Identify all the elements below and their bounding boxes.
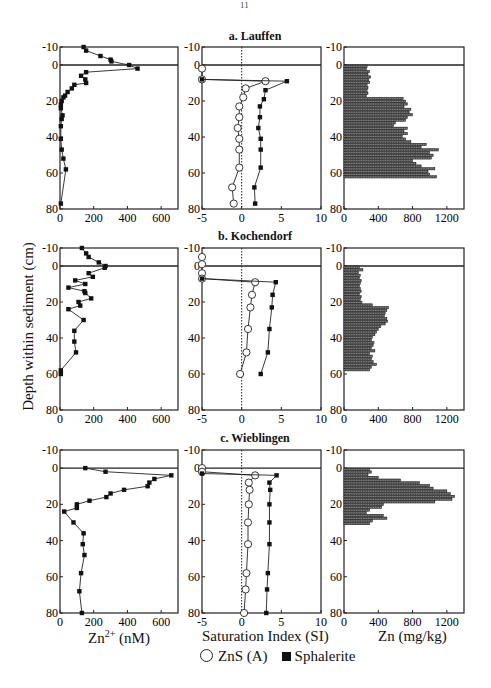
svg-text:20: 20 — [188, 295, 200, 309]
svg-text:0: 0 — [239, 211, 245, 225]
site-title-kochendorf: b. Kochendorf — [185, 229, 325, 244]
svg-text:60: 60 — [46, 367, 58, 381]
svg-text:600: 600 — [152, 615, 170, 629]
svg-text:40: 40 — [46, 130, 58, 144]
svg-text:20: 20 — [188, 497, 200, 511]
x-axis-label-si: Saturation Index (SI) — [202, 628, 329, 645]
legend-sphalerite: Sphalerite — [295, 648, 356, 664]
x-axis-label-zn2: Zn2+ (nM) — [88, 628, 150, 647]
svg-text:0: 0 — [341, 615, 347, 629]
svg-text:800: 800 — [404, 615, 422, 629]
svg-text:60: 60 — [46, 570, 58, 584]
svg-text:5: 5 — [278, 211, 284, 225]
svg-text:-10: -10 — [42, 241, 58, 255]
svg-text:-5: -5 — [197, 211, 207, 225]
svg-text:1200: 1200 — [435, 211, 459, 225]
svg-text:400: 400 — [118, 615, 136, 629]
svg-text:400: 400 — [369, 615, 387, 629]
chart-panel: -1002040608004008001200 — [326, 443, 464, 629]
svg-text:1200: 1200 — [435, 615, 459, 629]
svg-text:60: 60 — [330, 570, 342, 584]
svg-text:200: 200 — [85, 615, 103, 629]
svg-text:0: 0 — [239, 615, 245, 629]
legend-zns: ZnS (A) — [218, 648, 268, 664]
svg-text:0: 0 — [57, 615, 63, 629]
svg-text:0: 0 — [57, 211, 63, 225]
svg-text:0: 0 — [52, 58, 58, 72]
figure-canvas: -100204060800200400600-10020406080-50510… — [0, 0, 491, 688]
chart-panel: -10020406080-50510 — [184, 40, 327, 225]
svg-text:10: 10 — [315, 211, 327, 225]
svg-text:400: 400 — [118, 412, 136, 426]
svg-text:0: 0 — [239, 412, 245, 426]
svg-text:10: 10 — [315, 615, 327, 629]
svg-text:200: 200 — [85, 412, 103, 426]
svg-text:600: 600 — [152, 412, 170, 426]
svg-text:5: 5 — [278, 412, 284, 426]
open-circle-icon — [200, 649, 213, 662]
svg-text:20: 20 — [330, 295, 342, 309]
svg-text:60: 60 — [330, 166, 342, 180]
chart-panel: -10020406080-50510 — [184, 443, 327, 629]
svg-text:40: 40 — [330, 331, 342, 345]
svg-text:10: 10 — [315, 412, 327, 426]
svg-text:0: 0 — [57, 412, 63, 426]
site-title-lauffen: a. Lauffen — [185, 29, 325, 44]
svg-text:20: 20 — [46, 497, 58, 511]
svg-text:60: 60 — [188, 367, 200, 381]
svg-text:60: 60 — [330, 367, 342, 381]
svg-text:-10: -10 — [42, 40, 58, 54]
svg-text:40: 40 — [330, 130, 342, 144]
svg-text:-10: -10 — [42, 443, 58, 457]
svg-text:20: 20 — [46, 295, 58, 309]
chart-panel: -100204060800200400600 — [42, 443, 178, 629]
chart-panel: -1002040608004008001200 — [326, 40, 464, 225]
svg-text:400: 400 — [369, 211, 387, 225]
svg-text:0: 0 — [341, 211, 347, 225]
svg-text:5: 5 — [278, 615, 284, 629]
svg-text:0: 0 — [336, 58, 342, 72]
svg-text:600: 600 — [152, 211, 170, 225]
svg-text:-10: -10 — [326, 443, 342, 457]
svg-text:40: 40 — [46, 534, 58, 548]
x-axis-label-zn-solid: Zn (mg/kg) — [378, 628, 447, 645]
svg-text:1200: 1200 — [435, 412, 459, 426]
svg-text:-5: -5 — [197, 615, 207, 629]
svg-text:0: 0 — [336, 259, 342, 273]
chart-panel: -1002040608004008001200 — [326, 241, 464, 426]
legend: ZnS (A)Sphalerite — [200, 648, 355, 665]
svg-text:0: 0 — [52, 461, 58, 475]
svg-text:40: 40 — [330, 534, 342, 548]
svg-text:-10: -10 — [326, 241, 342, 255]
svg-text:0: 0 — [341, 412, 347, 426]
svg-text:400: 400 — [369, 412, 387, 426]
svg-text:20: 20 — [330, 497, 342, 511]
chart-panel: -10020406080-50510 — [184, 241, 327, 426]
svg-text:60: 60 — [188, 570, 200, 584]
chart-panel: -100204060800200400600 — [42, 40, 178, 225]
svg-text:-10: -10 — [326, 40, 342, 54]
svg-text:-5: -5 — [197, 412, 207, 426]
svg-text:0: 0 — [336, 461, 342, 475]
svg-text:400: 400 — [118, 211, 136, 225]
svg-text:20: 20 — [188, 94, 200, 108]
svg-text:60: 60 — [46, 166, 58, 180]
chart-panel: -100204060800200400600 — [42, 241, 178, 426]
filled-square-icon — [282, 652, 291, 661]
svg-text:20: 20 — [330, 94, 342, 108]
svg-text:200: 200 — [85, 211, 103, 225]
svg-text:800: 800 — [404, 211, 422, 225]
y-axis-label: Depth within sediment (cm) — [20, 237, 37, 417]
svg-text:800: 800 — [404, 412, 422, 426]
svg-text:40: 40 — [188, 130, 200, 144]
svg-text:0: 0 — [52, 259, 58, 273]
site-title-wieblingen: c. Wieblingen — [185, 431, 325, 446]
svg-text:20: 20 — [46, 94, 58, 108]
svg-text:40: 40 — [46, 331, 58, 345]
svg-text:40: 40 — [188, 534, 200, 548]
svg-text:40: 40 — [188, 331, 200, 345]
svg-text:60: 60 — [188, 166, 200, 180]
